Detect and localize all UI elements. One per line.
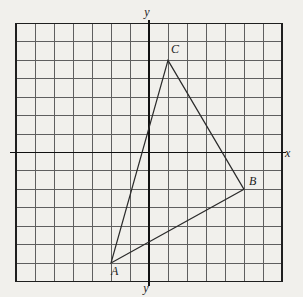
paper-background: [0, 0, 303, 297]
vertex-label-c: C: [171, 42, 180, 56]
x-axis-label: x: [284, 146, 291, 160]
vertex-label-a: A: [110, 264, 119, 278]
vertex-label-b: B: [249, 174, 257, 188]
y-axis-label-bottom: y: [142, 281, 149, 295]
y-axis-label-top: y: [143, 5, 150, 19]
figure-coordinate-grid: y y x A B C: [0, 0, 303, 297]
coordinate-grid-svg: y y x A B C: [0, 0, 303, 297]
